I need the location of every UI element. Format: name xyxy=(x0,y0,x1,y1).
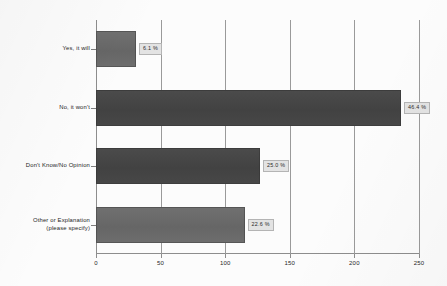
bar-value-label: 6.1 % xyxy=(139,43,162,55)
bar[interactable] xyxy=(96,207,245,243)
category-label-line: (please specify) xyxy=(33,225,90,233)
x-tick-150 xyxy=(290,254,291,258)
bar-value-label: 25.0 % xyxy=(263,160,289,172)
gridline-250 xyxy=(419,20,420,254)
x-tick-0 xyxy=(96,254,97,258)
x-tick-100 xyxy=(225,254,226,258)
bar-row: 25.0 %Don't Know/No Opinion xyxy=(96,148,419,184)
category-label-line: Yes, it will xyxy=(63,45,90,53)
category-label-line: Don't Know/No Opinion xyxy=(26,162,90,170)
category-label: Yes, it will xyxy=(63,45,96,53)
x-tick-label: 100 xyxy=(220,260,231,266)
x-tick-label: 50 xyxy=(157,260,164,266)
category-label: No, it won't xyxy=(59,104,96,112)
bar-value-label: 46.4 % xyxy=(404,102,430,114)
category-label: Other or Explanation(please specify) xyxy=(33,217,96,232)
bar[interactable] xyxy=(96,148,260,184)
category-label-line: Other or Explanation xyxy=(33,217,90,225)
category-label-line: No, it won't xyxy=(59,104,90,112)
category-label: Don't Know/No Opinion xyxy=(26,162,96,170)
bar-row: 6.1 %Yes, it will xyxy=(96,31,419,67)
x-tick-label: 200 xyxy=(349,260,360,266)
x-tick-label: 0 xyxy=(94,260,98,266)
bar-value-label: 22.6 % xyxy=(248,219,274,231)
bar[interactable] xyxy=(96,90,401,126)
x-tick-250 xyxy=(419,254,420,258)
bar-row: 22.6 %Other or Explanation(please specif… xyxy=(96,207,419,243)
bar-chart: 6.1 %Yes, it will46.4 %No, it won't25.0 … xyxy=(0,0,447,286)
plot-area: 6.1 %Yes, it will46.4 %No, it won't25.0 … xyxy=(96,20,419,254)
bar-row: 46.4 %No, it won't xyxy=(96,90,419,126)
x-tick-200 xyxy=(354,254,355,258)
x-axis-line xyxy=(96,253,419,254)
bar[interactable] xyxy=(96,31,136,67)
x-tick-label: 250 xyxy=(414,260,425,266)
x-tick-label: 150 xyxy=(284,260,295,266)
x-tick-50 xyxy=(161,254,162,258)
